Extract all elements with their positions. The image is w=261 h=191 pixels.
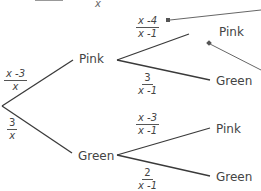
branch-green-green	[117, 155, 210, 176]
outcome-pink: Pink	[79, 53, 104, 65]
outcome-pink-green: Green	[216, 75, 252, 87]
prob-green-green: 2 x -1	[138, 168, 157, 191]
pointer-marker-1	[166, 18, 170, 22]
outcome-green-green: Green	[216, 171, 252, 183]
outcome-green-pink: Pink	[216, 123, 241, 135]
branch-green-pink	[117, 128, 210, 155]
pointer-line-2	[210, 44, 261, 70]
prob-pink-pink: x -4 x -1	[136, 16, 159, 39]
pointer-line-1	[170, 10, 261, 20]
branch-pink-green	[117, 60, 210, 80]
outcome-green: Green	[78, 150, 114, 162]
prob-root-pink: x -3 x	[4, 69, 27, 92]
prob-green-pink: x -3 x -1	[136, 113, 159, 136]
outcome-pink-pink: Pink	[219, 26, 244, 38]
prob-root-green: 3 x	[7, 118, 17, 141]
prob-pink-green: 3 x -1	[138, 73, 157, 96]
